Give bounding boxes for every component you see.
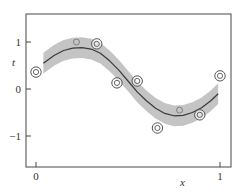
data-point xyxy=(31,67,41,77)
chart: 01−101 x t xyxy=(0,0,242,194)
x-tick-label: 0 xyxy=(33,170,39,182)
data-point xyxy=(195,110,205,120)
y-tick-label: 0 xyxy=(16,83,22,95)
data-point xyxy=(92,39,102,49)
data-point xyxy=(152,123,162,133)
data-point xyxy=(215,71,225,81)
data-point xyxy=(132,76,142,86)
data-point xyxy=(112,78,122,88)
x-axis-label: x xyxy=(179,176,185,188)
y-tick-label: −1 xyxy=(9,130,21,142)
y-axis-label: t xyxy=(12,56,16,68)
y-tick-label: 1 xyxy=(16,36,22,48)
x-tick-label: 1 xyxy=(217,170,223,182)
